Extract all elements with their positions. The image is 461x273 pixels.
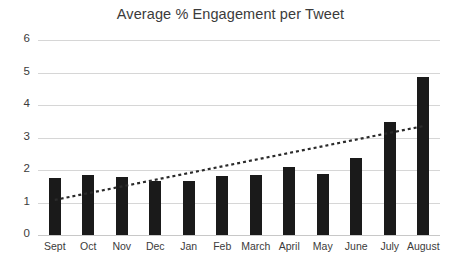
bar bbox=[283, 167, 295, 235]
x-axis-tick-label: Jan bbox=[180, 240, 197, 252]
bar bbox=[384, 122, 396, 235]
x-axis-tick-label: Oct bbox=[80, 240, 96, 252]
x-axis-tick-label: May bbox=[313, 240, 333, 252]
gridline bbox=[38, 235, 440, 236]
gridline bbox=[38, 170, 440, 171]
x-axis-tick-label: July bbox=[380, 240, 399, 252]
bar bbox=[350, 158, 362, 235]
plot-area bbox=[38, 40, 440, 235]
y-axis-tick-label: 4 bbox=[0, 97, 30, 109]
x-axis-tick-label: March bbox=[241, 240, 270, 252]
chart-container: Average % Engagement per Tweet 0123456 S… bbox=[0, 0, 461, 273]
gridline bbox=[38, 73, 440, 74]
y-axis-tick-label: 2 bbox=[0, 162, 30, 174]
y-axis-tick-label: 3 bbox=[0, 130, 30, 142]
bar bbox=[250, 175, 262, 235]
chart-title: Average % Engagement per Tweet bbox=[0, 6, 461, 22]
gridline bbox=[38, 40, 440, 41]
bar bbox=[149, 181, 161, 235]
x-axis-tick-label: August bbox=[407, 240, 440, 252]
bar bbox=[116, 177, 128, 236]
x-axis-tick-label: April bbox=[279, 240, 300, 252]
y-axis-tick-label: 6 bbox=[0, 32, 30, 44]
bar bbox=[49, 178, 61, 235]
x-axis-tick-label: June bbox=[345, 240, 368, 252]
gridline bbox=[38, 138, 440, 139]
gridline bbox=[38, 105, 440, 106]
bar bbox=[317, 174, 329, 235]
y-axis-tick-label: 0 bbox=[0, 227, 30, 239]
y-axis-tick-label: 5 bbox=[0, 65, 30, 77]
x-axis-tick-label: Feb bbox=[213, 240, 231, 252]
gridline bbox=[38, 203, 440, 204]
x-axis-tick-label: Dec bbox=[146, 240, 165, 252]
bar bbox=[82, 175, 94, 235]
y-axis-tick-label: 1 bbox=[0, 195, 30, 207]
bar bbox=[417, 77, 429, 235]
x-axis-tick-label: Sept bbox=[44, 240, 66, 252]
bar bbox=[183, 181, 195, 235]
bar bbox=[216, 176, 228, 235]
x-axis-tick-label: Nov bbox=[112, 240, 131, 252]
